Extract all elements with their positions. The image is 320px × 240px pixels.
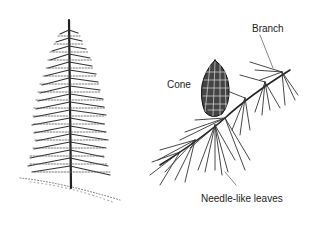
- needles-leader-line: [225, 172, 236, 185]
- conifer-tree-icon: [20, 20, 120, 203]
- pine-branch-icon: [150, 35, 298, 185]
- pine-cone-icon: [201, 60, 229, 117]
- branch-label: Branch: [252, 23, 284, 34]
- cone-label: Cone: [167, 79, 191, 90]
- branch-leader-line: [260, 35, 273, 68]
- needles-label: Needle-like leaves: [201, 193, 283, 204]
